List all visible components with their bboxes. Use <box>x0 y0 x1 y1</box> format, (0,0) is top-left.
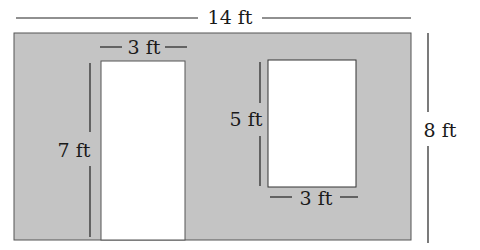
window-height-label: 5 ft <box>230 108 263 130</box>
window <box>268 60 356 187</box>
wall-width-label: 14 ft <box>208 6 253 28</box>
door-height-label: 7 ft <box>58 139 91 161</box>
wall-height-label: 8 ft <box>424 119 457 141</box>
wall-diagram: 14 ft 3 ft 7 ft 5 ft 3 ft 8 ft <box>0 0 480 250</box>
door <box>101 61 185 240</box>
door-width-label: 3 ft <box>128 36 161 58</box>
window-width-label: 3 ft <box>300 187 333 209</box>
